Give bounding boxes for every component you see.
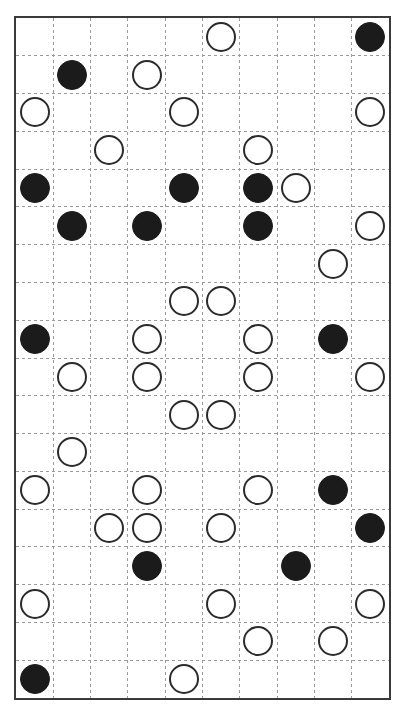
white-stone[interactable]: [243, 135, 273, 165]
white-stone[interactable]: [318, 249, 348, 279]
white-stone[interactable]: [94, 135, 124, 165]
black-stone[interactable]: [20, 173, 50, 203]
black-stone[interactable]: [318, 324, 348, 354]
black-stone[interactable]: [169, 173, 199, 203]
white-stone[interactable]: [169, 400, 199, 430]
board-frame: [14, 16, 391, 700]
black-stone[interactable]: [20, 664, 50, 694]
stone-layer: [16, 18, 389, 698]
black-stone[interactable]: [20, 324, 50, 354]
white-stone[interactable]: [355, 589, 385, 619]
white-stone[interactable]: [132, 60, 162, 90]
white-stone[interactable]: [281, 173, 311, 203]
white-stone[interactable]: [355, 211, 385, 241]
white-stone[interactable]: [132, 324, 162, 354]
page-root: [0, 0, 403, 719]
white-stone[interactable]: [206, 400, 236, 430]
black-stone[interactable]: [132, 551, 162, 581]
white-stone[interactable]: [206, 589, 236, 619]
black-stone[interactable]: [281, 551, 311, 581]
black-stone[interactable]: [132, 211, 162, 241]
white-stone[interactable]: [57, 437, 87, 467]
black-stone[interactable]: [243, 173, 273, 203]
white-stone[interactable]: [57, 362, 87, 392]
black-stone[interactable]: [243, 211, 273, 241]
white-stone[interactable]: [206, 286, 236, 316]
white-stone[interactable]: [169, 664, 199, 694]
white-stone[interactable]: [20, 97, 50, 127]
white-stone[interactable]: [355, 97, 385, 127]
white-stone[interactable]: [20, 475, 50, 505]
white-stone[interactable]: [206, 22, 236, 52]
black-stone[interactable]: [318, 475, 348, 505]
white-stone[interactable]: [243, 324, 273, 354]
white-stone[interactable]: [318, 626, 348, 656]
white-stone[interactable]: [355, 362, 385, 392]
white-stone[interactable]: [206, 513, 236, 543]
white-stone[interactable]: [132, 475, 162, 505]
white-stone[interactable]: [94, 513, 124, 543]
white-stone[interactable]: [169, 286, 199, 316]
white-stone[interactable]: [132, 513, 162, 543]
white-stone[interactable]: [243, 362, 273, 392]
white-stone[interactable]: [243, 626, 273, 656]
black-stone[interactable]: [355, 513, 385, 543]
black-stone[interactable]: [57, 60, 87, 90]
white-stone[interactable]: [169, 97, 199, 127]
black-stone[interactable]: [355, 22, 385, 52]
white-stone[interactable]: [132, 362, 162, 392]
black-stone[interactable]: [57, 211, 87, 241]
white-stone[interactable]: [20, 589, 50, 619]
white-stone[interactable]: [243, 475, 273, 505]
